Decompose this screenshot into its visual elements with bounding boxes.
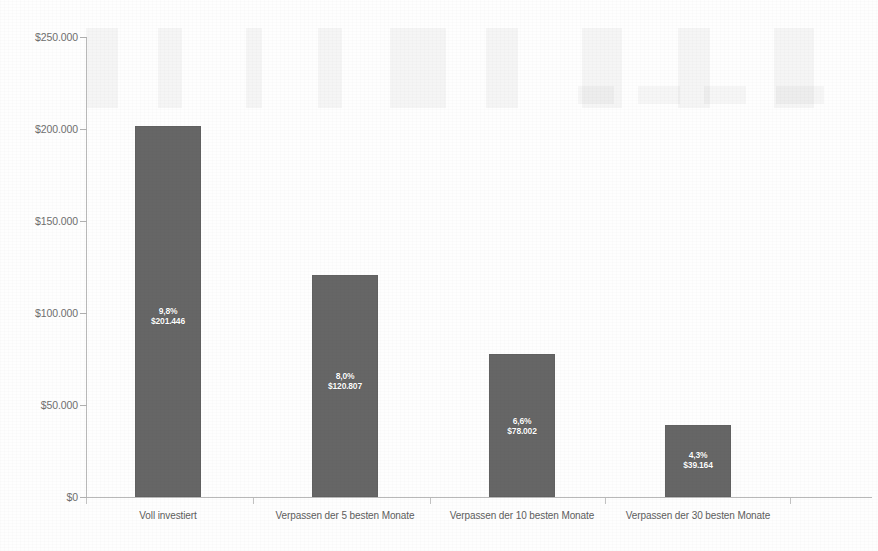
y-tick-100000: [80, 313, 87, 314]
y-tick-50000: [80, 405, 87, 406]
bar-percent-verpassen-30-beste-monate: 4,3%: [665, 450, 731, 460]
x-tick-0: [86, 498, 87, 504]
bar-label-verpassen-10-beste-monate: 6,6% $78.002: [489, 416, 555, 436]
x-axis-category-verpassen-30-beste-monate: Verpassen der 30 besten Monate: [626, 510, 770, 521]
x-tick-4: [790, 498, 791, 504]
y-axis-line: [86, 37, 87, 498]
bar-value-voll-investiert: $201.446: [135, 316, 201, 326]
x-axis-category-voll-investiert: Voll investiert: [139, 510, 196, 521]
y-tick-250000: [80, 37, 87, 38]
y-axis-label-150000: $150.000: [4, 215, 78, 227]
bar-verpassen-5-beste-monate[interactable]: 8,0% $120.807: [312, 275, 378, 497]
chart-page: $250.000 $200.000 $150.000 $100.000 $50.…: [0, 0, 878, 551]
bar-voll-investiert[interactable]: 9,8% $201.446: [135, 126, 201, 497]
bar-chart: $250.000 $200.000 $150.000 $100.000 $50.…: [0, 0, 878, 551]
y-axis-label-0: $0: [4, 491, 78, 503]
bar-label-voll-investiert: 9,8% $201.446: [135, 306, 201, 326]
y-tick-150000: [80, 221, 87, 222]
bar-percent-voll-investiert: 9,8%: [135, 306, 201, 316]
bar-label-verpassen-30-beste-monate: 4,3% $39.164: [665, 450, 731, 470]
y-axis-label-100000: $100.000: [4, 307, 78, 319]
x-axis-category-verpassen-10-beste-monate: Verpassen der 10 besten Monate: [450, 510, 594, 521]
x-tick-3: [605, 498, 606, 504]
y-axis-label-250000: $250.000: [4, 31, 78, 43]
bar-value-verpassen-5-beste-monate: $120.807: [312, 381, 378, 391]
bar-value-verpassen-10-beste-monate: $78.002: [489, 426, 555, 436]
y-axis-label-50000: $50.000: [4, 399, 78, 411]
y-axis-label-200000: $200.000: [4, 123, 78, 135]
bar-percent-verpassen-10-beste-monate: 6,6%: [489, 416, 555, 426]
bar-percent-verpassen-5-beste-monate: 8,0%: [312, 371, 378, 381]
x-axis-line: [86, 497, 872, 498]
bar-verpassen-30-beste-monate[interactable]: 4,3% $39.164: [665, 425, 731, 497]
x-tick-2: [430, 498, 431, 504]
bar-label-verpassen-5-beste-monate: 8,0% $120.807: [312, 371, 378, 391]
y-tick-200000: [80, 129, 87, 130]
bar-verpassen-10-beste-monate[interactable]: 6,6% $78.002: [489, 354, 555, 497]
x-axis-category-verpassen-5-beste-monate: Verpassen der 5 besten Monate: [276, 510, 415, 521]
bar-value-verpassen-30-beste-monate: $39.164: [665, 460, 731, 470]
x-tick-1: [253, 498, 254, 504]
